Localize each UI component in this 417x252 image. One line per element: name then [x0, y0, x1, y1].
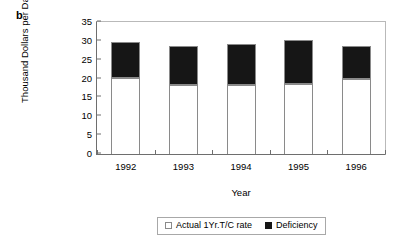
y-tick-30: 30: [97, 39, 101, 40]
bar-group: [284, 22, 313, 154]
y-axis-title: Thousand Dollars per Day: [20, 0, 30, 118]
y-tick-15: 15: [97, 96, 101, 97]
x-tick-label-1992: 1992: [115, 162, 136, 172]
x-tick: [385, 150, 386, 154]
y-tick-10: 10: [97, 115, 101, 116]
bar-segment-deficiency: [227, 44, 256, 86]
chart-legend: Actual 1Yr.T/C rateDeficiency: [157, 217, 326, 235]
figure-panel-b: b Thousand Dollars per Day 3530252015105…: [0, 0, 417, 252]
y-tick-label: 10: [81, 111, 92, 121]
bar-segment-deficiency: [111, 42, 140, 78]
bar-group: [111, 22, 140, 154]
bar-segment-actual: [284, 84, 313, 154]
bar-segment-deficiency: [284, 40, 313, 85]
legend-label: Actual 1Yr.T/C rate: [176, 221, 252, 230]
bar-segment-deficiency: [169, 46, 198, 85]
legend-entry: Deficiency: [265, 221, 318, 230]
legend-label: Deficiency: [276, 221, 318, 230]
y-tick-5: 5: [97, 134, 101, 135]
x-tick: [327, 150, 328, 154]
x-tick-label-1995: 1995: [288, 162, 309, 172]
y-tick-20: 20: [97, 77, 101, 78]
y-tick-label: 20: [81, 73, 92, 83]
bar-segment-deficiency: [342, 46, 371, 79]
y-tick-25: 25: [97, 58, 101, 59]
bar-group: [169, 22, 198, 154]
x-tick-label-1993: 1993: [173, 162, 194, 172]
x-tick: [155, 150, 156, 154]
y-tick-label: 25: [81, 54, 92, 64]
y-tick-label: 15: [81, 92, 92, 102]
plot-area: 35302520151050 19921993199419951996: [96, 21, 386, 155]
bar-segment-actual: [111, 78, 140, 154]
legend-entry: Actual 1Yr.T/C rate: [165, 221, 252, 230]
y-tick-35: 35: [97, 21, 101, 22]
y-tick-label: 30: [81, 36, 92, 46]
bar-group: [227, 22, 256, 154]
x-tick: [97, 150, 98, 154]
x-tick-label-1994: 1994: [230, 162, 251, 172]
bar-segment-actual: [169, 85, 198, 154]
x-tick-label-1996: 1996: [346, 162, 367, 172]
bar-group: [342, 22, 371, 154]
legend-swatch-white-icon: [165, 222, 172, 229]
x-tick: [212, 150, 213, 154]
bar-segment-actual: [342, 79, 371, 154]
y-tick-label: 35: [81, 17, 92, 27]
y-tick-label: 0: [87, 149, 92, 159]
y-tick-label: 5: [87, 130, 92, 140]
x-tick: [270, 150, 271, 154]
x-axis-title: Year: [96, 188, 386, 198]
bar-segment-actual: [227, 85, 256, 154]
legend-swatch-black-icon: [265, 222, 272, 229]
